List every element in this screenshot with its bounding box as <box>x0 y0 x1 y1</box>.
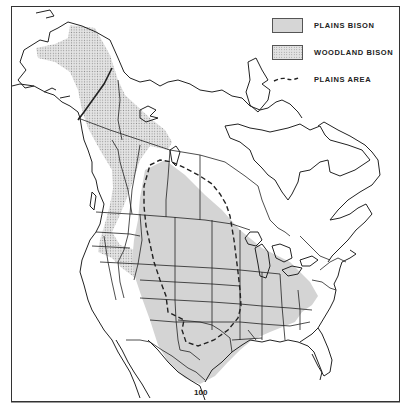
legend-item-woodland-bison: WOODLAND BISON <box>272 41 397 63</box>
dashed-line-icon <box>272 74 303 84</box>
woodland-bison-swatch <box>272 45 303 60</box>
plains-bison-swatch <box>272 18 303 33</box>
meridian-label: 100 <box>194 388 207 397</box>
map-legend: PLAINS BISON WOODLAND BISON PLAINS AREA <box>272 14 397 95</box>
legend-item-plains-bison: PLAINS BISON <box>272 14 397 36</box>
plains-bison-range <box>132 160 318 384</box>
legend-item-plains-area: PLAINS AREA <box>272 68 397 90</box>
legend-label: WOODLAND BISON <box>314 48 393 57</box>
legend-label: PLAINS BISON <box>314 21 375 30</box>
legend-label: PLAINS AREA <box>314 75 371 84</box>
